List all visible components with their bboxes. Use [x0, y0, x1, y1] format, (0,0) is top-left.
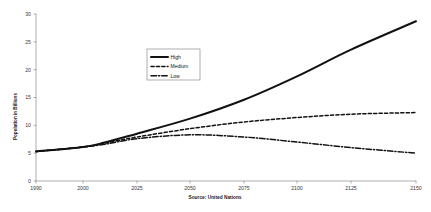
- series-group: [36, 21, 416, 153]
- y-tick-label: 15: [25, 94, 31, 100]
- plot-axes: [36, 14, 416, 181]
- x-tick-label: 2100: [291, 185, 303, 191]
- legend-label-high: High: [171, 54, 182, 60]
- series-line-low: [36, 135, 416, 153]
- source-note-group: Source: United Nations: [188, 195, 241, 200]
- x-tick-label: 2025: [131, 185, 143, 191]
- y-tick-label: 0: [28, 178, 31, 184]
- x-tick-label: 2000: [77, 185, 89, 191]
- chart-canvas: 051015202530 199020002025205020752100212…: [0, 0, 431, 212]
- y-tick-label: 25: [25, 39, 31, 45]
- x-tick-label: 2125: [345, 185, 357, 191]
- legend-label-low: Low: [171, 73, 181, 79]
- x-tick-label: 2150: [410, 185, 422, 191]
- y-tick-label: 5: [28, 150, 31, 156]
- x-tick-label: 2050: [184, 185, 196, 191]
- y-axis-title-group: Population in Billions: [13, 93, 18, 140]
- source-note: Source: United Nations: [188, 195, 241, 200]
- y-tick-label: 20: [25, 67, 31, 73]
- population-projection-chart: 051015202530 199020002025205020752100212…: [0, 0, 431, 212]
- x-axis-ticks: 19902000202520502075210021252150: [30, 181, 422, 192]
- x-tick-label: 1990: [30, 185, 42, 191]
- y-tick-label: 30: [25, 11, 31, 17]
- y-axis-title: Population in Billions: [13, 93, 18, 140]
- legend: HighMediumLow: [147, 49, 200, 80]
- y-axis-ticks: 051015202530: [25, 11, 36, 184]
- x-tick-label: 2075: [238, 185, 250, 191]
- series-line-high: [36, 21, 416, 151]
- legend-label-medium: Medium: [171, 63, 189, 69]
- y-tick-label: 10: [25, 122, 31, 128]
